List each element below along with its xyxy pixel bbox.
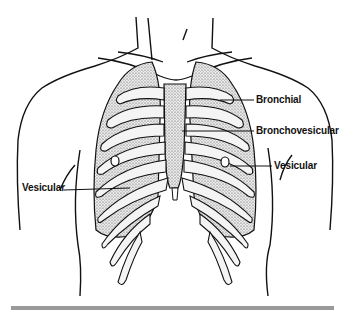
sternum (164, 84, 186, 188)
marker-right (111, 156, 119, 166)
xiphoid-process (172, 188, 178, 200)
rib-cage-illustration (0, 0, 347, 310)
marker-left (221, 157, 229, 167)
bottom-divider (11, 306, 334, 310)
label-vesicular-right: Vesicular (22, 182, 65, 193)
label-bronchovesicular: Bronchovesicular (256, 125, 339, 136)
chest-diagram: Bronchial Bronchovesicular Vesicular Ves… (0, 0, 347, 310)
label-bronchial: Bronchial (256, 94, 301, 105)
label-vesicular-left: Vesicular (274, 160, 317, 171)
